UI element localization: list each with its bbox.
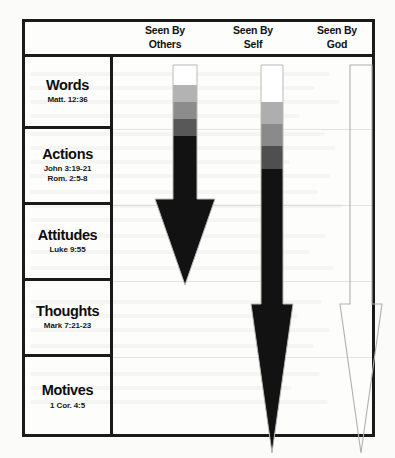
row-label-actions: Actions John 3:19-21 Rom. 2:5-8: [25, 129, 110, 205]
row-reference-secondary: Rom. 2:5-8: [48, 174, 88, 184]
row-reference: Matt. 12:36: [47, 95, 87, 105]
chart-header-row: Seen By Others Seen By Self Seen By God: [25, 22, 372, 57]
row-title: Attitudes: [38, 228, 98, 243]
row-title: Motives: [42, 383, 94, 398]
column-header-line2: Self: [209, 38, 297, 52]
row-label-motives: Motives 1 Cor. 4:5: [25, 357, 110, 437]
row-title: Words: [46, 78, 89, 93]
seen-by-god-arrow: [113, 57, 375, 437]
row-title: Thoughts: [36, 304, 99, 319]
column-header-line1: Seen By: [293, 24, 381, 38]
row-reference: Mark 7:21-23: [44, 321, 91, 331]
column-header-seen-by-self: Seen By Self: [209, 24, 297, 52]
arrows-plot-area: [113, 57, 375, 437]
column-header-seen-by-others: Seen By Others: [121, 24, 209, 52]
row-reference: Luke 9:55: [49, 245, 85, 255]
row-label-words: Words Matt. 12:36: [25, 57, 110, 129]
row-label-column: Words Matt. 12:36 Actions John 3:19-21 R…: [25, 57, 110, 437]
column-header-line2: Others: [121, 38, 209, 52]
column-header-line2: God: [293, 38, 381, 52]
column-header-line1: Seen By: [121, 24, 209, 38]
row-reference: 1 Cor. 4:5: [50, 401, 85, 411]
row-reference: John 3:19-21: [44, 164, 92, 174]
row-label-attitudes: Attitudes Luke 9:55: [25, 205, 110, 281]
row-label-thoughts: Thoughts Mark 7:21-23: [25, 281, 110, 357]
chart-frame: Seen By Others Seen By Self Seen By God …: [22, 19, 375, 437]
column-header-seen-by-god: Seen By God: [293, 24, 381, 52]
row-title: Actions: [42, 147, 93, 162]
column-header-line1: Seen By: [209, 24, 297, 38]
